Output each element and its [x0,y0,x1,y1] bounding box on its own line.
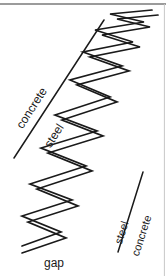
crack-interface-figure: concrete steel steel concrete gap [0,0,166,276]
label-gap: gap [44,257,64,269]
